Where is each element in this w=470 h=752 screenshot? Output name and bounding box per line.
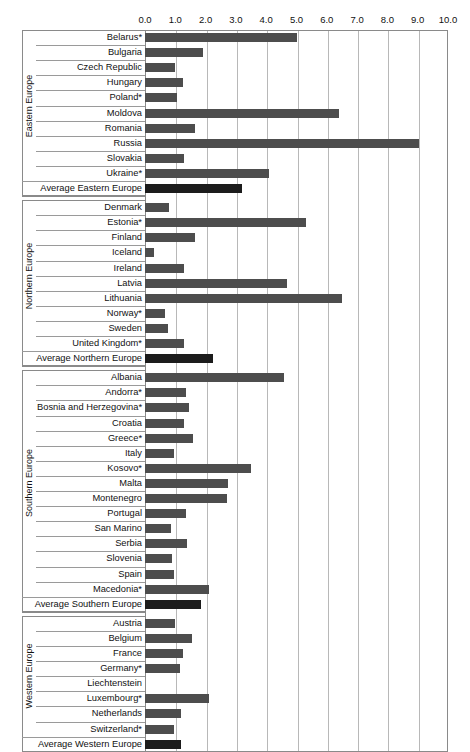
bar-luxembourg [145, 694, 209, 703]
group-separator [22, 366, 145, 367]
bar-albania [145, 373, 284, 382]
bar-russia [145, 139, 419, 148]
bar-average-western-europe [145, 740, 181, 749]
bar-romania [145, 124, 195, 133]
bar-bulgaria [145, 48, 203, 57]
bar-ukraine [145, 169, 269, 178]
bar-san-marino [145, 524, 171, 533]
x-axis-tick-2-0: 2.0 [199, 14, 212, 25]
category-label-portugal: Portugal [22, 506, 145, 521]
category-label-serbia: Serbia [22, 536, 145, 551]
category-label-latvia: Latvia [22, 276, 145, 291]
category-label-germany: Germany* [22, 661, 145, 676]
category-label-malta: Malta [22, 476, 145, 491]
category-label-italy: Italy [22, 446, 145, 461]
bar-france [145, 649, 183, 658]
category-label-san-marino: San Marino [22, 521, 145, 536]
category-label-moldova: Moldova [22, 106, 145, 121]
x-axis-tick-3-0: 3.0 [229, 14, 242, 25]
category-label-switzerland: Switzerland* [22, 722, 145, 737]
category-label-belgium: Belgium [22, 631, 145, 646]
category-label-lithuania: Lithuania [22, 291, 145, 306]
bar-estonia [145, 218, 306, 227]
bar-hungary [145, 78, 183, 87]
bar-bosnia-and-herzegovina [145, 403, 189, 412]
category-label-luxembourg: Luxembourg* [22, 691, 145, 706]
bar-macedonia [145, 585, 209, 594]
category-label-average-southern-europe: Average Southern Europe [22, 597, 145, 612]
bar-norway [145, 309, 165, 318]
category-label-norway: Norway* [22, 306, 145, 321]
x-axis-tick-4-0: 4.0 [260, 14, 273, 25]
x-axis-tick-5-0: 5.0 [290, 14, 303, 25]
category-label-hungary: Hungary [22, 75, 145, 90]
bar-netherlands [145, 709, 181, 718]
group-separator [22, 612, 145, 613]
bar-average-southern-europe [145, 600, 201, 609]
bar-switzerland [145, 725, 174, 734]
x-axis-tick-6-0: 6.0 [320, 14, 333, 25]
bar-greece [145, 434, 193, 443]
bar-montenegro [145, 494, 227, 503]
bar-portugal [145, 509, 186, 518]
category-label-average-eastern-europe: Average Eastern Europe [22, 181, 145, 196]
category-label-ireland: Ireland [22, 261, 145, 276]
bar-spain [145, 570, 174, 579]
bar-belarus [145, 33, 297, 42]
bar-belgium [145, 634, 192, 643]
x-axis-tick-0-0: 0.0 [138, 14, 151, 25]
category-label-austria: Austria [22, 616, 145, 631]
bar-croatia [145, 419, 184, 428]
bar-italy [145, 449, 174, 458]
bar-poland [145, 93, 177, 102]
category-label-croatia: Croatia [22, 416, 145, 431]
category-label-bosnia-and-herzegovina: Bosnia and Herzegovina* [22, 400, 145, 415]
category-label-belarus: Belarus* [22, 30, 145, 45]
bar-lithuania [145, 294, 342, 303]
bar-slovenia [145, 554, 172, 563]
category-label-average-western-europe: Average Western Europe [22, 737, 145, 752]
bar-denmark [145, 203, 169, 212]
bar-ireland [145, 264, 184, 273]
category-label-denmark: Denmark [22, 200, 145, 215]
bar-malta [145, 479, 228, 488]
category-label-iceland: Iceland [22, 245, 145, 260]
x-axis-tick-1-0: 1.0 [169, 14, 182, 25]
category-label-greece: Greece* [22, 431, 145, 446]
category-label-albania: Albania [22, 370, 145, 385]
category-label-ukraine: Ukraine* [22, 166, 145, 181]
bar-austria [145, 619, 175, 628]
category-label-macedonia: Macedonia* [22, 582, 145, 597]
category-label-bulgaria: Bulgaria [22, 45, 145, 60]
bar-serbia [145, 539, 187, 548]
bar-sweden [145, 324, 168, 333]
bar-average-northern-europe [145, 354, 213, 363]
category-label-kosovo: Kosovo* [22, 461, 145, 476]
bar-germany [145, 664, 180, 673]
group-separator [22, 196, 145, 197]
x-axis-tick-10-0: 10.0 [439, 14, 458, 25]
bar-slovakia [145, 154, 184, 163]
bar-kosovo [145, 464, 251, 473]
category-label-average-northern-europe: Average Northern Europe [22, 351, 145, 366]
category-label-slovenia: Slovenia [22, 551, 145, 566]
x-axis-tick-labels: 0.01.02.03.04.05.06.07.08.09.010.0 [0, 14, 470, 30]
bar-united-kingdom [145, 339, 184, 348]
category-label-slovakia: Slovakia [22, 151, 145, 166]
category-label-czech-republic: Czech Republic [22, 60, 145, 75]
category-label-finland: Finland [22, 230, 145, 245]
bar-latvia [145, 279, 287, 288]
bar-finland [145, 233, 195, 242]
bar-iceland [145, 248, 154, 257]
bar-andorra [145, 388, 186, 397]
category-label-estonia: Estonia* [22, 215, 145, 230]
x-axis-tick-9-0: 9.0 [411, 14, 424, 25]
category-label-poland: Poland* [22, 90, 145, 105]
category-label-romania: Romania [22, 121, 145, 136]
x-axis-tick-8-0: 8.0 [381, 14, 394, 25]
category-label-liechtenstein: Liechtenstein [22, 676, 145, 691]
category-label-france: France [22, 646, 145, 661]
category-label-andorra: Andorra* [22, 385, 145, 400]
x-axis-tick-7-0: 7.0 [350, 14, 363, 25]
